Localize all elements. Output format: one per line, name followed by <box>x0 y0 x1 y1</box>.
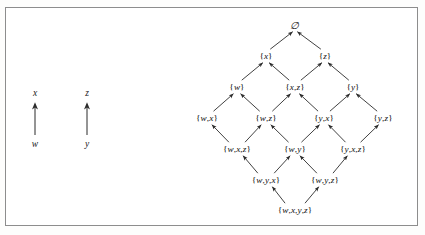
figure-container: xwzy ∅{x}{z}{w}{x,z}{y}{w,x}{w,z}{y,x}{y… <box>0 0 425 235</box>
edge-wx-to-w <box>214 94 234 111</box>
lattice-node-wxyz: {w,x,y,z} <box>276 205 314 215</box>
lattice-node-yxz: {y,x,z} <box>339 144 368 154</box>
edge-wy-to-wz <box>271 125 289 142</box>
edge-wxz-to-wx <box>212 125 229 142</box>
edge-yxz-to-yx <box>329 125 346 142</box>
lattice-node-y: {y} <box>345 82 361 92</box>
lattice-node-wy: {w,y} <box>283 144 308 154</box>
lattice-node-wyx: {w,y,x} <box>250 175 281 185</box>
lattice-node-wx: {w,x} <box>195 113 220 123</box>
edge-wy-to-yx <box>301 125 319 142</box>
edge-wyz-to-yxz <box>333 156 347 173</box>
lattice-node-empty: ∅ <box>289 20 301 31</box>
edge-x-to-empty <box>270 32 292 49</box>
edge-yxz-to-yz <box>361 125 379 142</box>
lattice-node-xz: {x,z} <box>284 82 306 92</box>
lattice-node-yz: {y,z} <box>372 113 394 123</box>
edge-y-to-z <box>328 63 349 80</box>
edge-xz-to-x <box>269 63 289 80</box>
edge-wxz-to-wz <box>245 125 261 142</box>
edge-wyz-to-wy <box>300 156 317 173</box>
edge-yz-to-y <box>356 94 377 111</box>
edge-z-to-empty <box>297 32 320 49</box>
lattice-diagram: ∅{x}{z}{w}{x,z}{y}{w,x}{w,z}{y,x}{y,z}{w… <box>0 0 425 235</box>
edge-wxyz-to-wyz <box>305 187 319 203</box>
edge-wz-to-w <box>241 94 260 111</box>
edge-xz-to-z <box>301 63 322 80</box>
edge-wz-to-xz <box>272 94 290 111</box>
lattice-node-x: {x} <box>258 51 274 61</box>
edge-yx-to-xz <box>299 94 318 111</box>
edge-w-to-x <box>242 63 263 80</box>
edge-wyx-to-wxz <box>243 156 258 173</box>
lattice-node-wxz: {w,x,z} <box>222 144 253 154</box>
lattice-node-yx: {y,x} <box>313 113 336 123</box>
edge-wxyz-to-wyx <box>272 187 285 203</box>
lattice-node-wz: {w,z} <box>254 113 278 123</box>
lattice-node-z: {z} <box>317 51 333 61</box>
lattice-node-wyz: {w,y,z} <box>310 175 341 185</box>
lattice-node-w: {w} <box>228 82 246 92</box>
edge-yx-to-y <box>330 94 350 111</box>
edge-wyx-to-wy <box>274 156 290 173</box>
